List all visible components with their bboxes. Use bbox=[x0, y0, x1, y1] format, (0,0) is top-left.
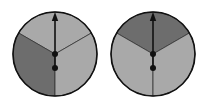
right-spinner bbox=[111, 12, 195, 96]
left-spinner bbox=[13, 12, 97, 96]
pivot-dot bbox=[52, 65, 58, 71]
hub-dot bbox=[52, 51, 58, 57]
spinners-figure bbox=[0, 0, 209, 102]
pivot-dot bbox=[150, 65, 156, 71]
hub-dot bbox=[150, 51, 156, 57]
